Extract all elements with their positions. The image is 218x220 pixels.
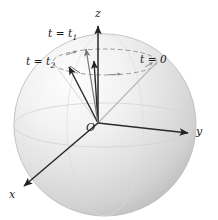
axis-label-x: x [9, 189, 15, 200]
vector-label-t2-subscript: 2 [50, 61, 55, 70]
vector-label-t2: t = t2 [26, 56, 55, 70]
vector-label-t1-prefix: t = t [48, 27, 72, 39]
axis-label-z: z [95, 8, 101, 19]
figure-canvas [0, 0, 218, 220]
vector-label-t2-prefix: t = t [26, 55, 50, 67]
origin-label: O [86, 122, 95, 133]
sphere-vector-figure: z y x O t = 0 t = t1 t = t2 [0, 0, 218, 220]
vector-label-t0: t = 0 [140, 54, 167, 65]
vector-label-t1-subscript: 1 [72, 33, 77, 42]
axis-label-y: y [196, 126, 202, 137]
vector-label-t1: t = t1 [48, 28, 77, 42]
